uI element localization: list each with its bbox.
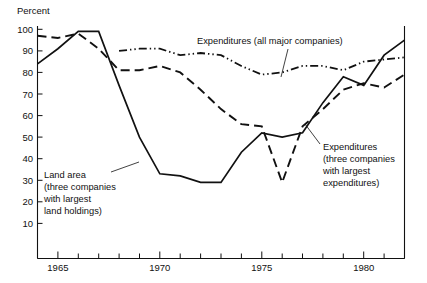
percent-line-chart: Percent 100 90 80 70 60 50 40 <box>0 0 427 283</box>
annotation-expenditures-three-line-2: (three companies <box>323 154 395 164</box>
x-label-1965: 1965 <box>47 262 68 273</box>
y-label-90: 90 <box>22 45 33 56</box>
y-label-50: 50 <box>22 132 33 143</box>
y-label-40: 40 <box>22 153 33 164</box>
annotation-expenditures-three-line-3: with largest <box>322 166 370 176</box>
annotation-expenditures-three-line-1: Expenditures <box>323 142 378 152</box>
y-label-30: 30 <box>22 175 33 186</box>
annotation-land-area-line-2: (three companies <box>44 182 116 192</box>
x-label-1980: 1980 <box>353 262 374 273</box>
y-label-80: 80 <box>22 67 33 78</box>
annotation-land-area-line-3: with largest <box>43 194 91 204</box>
y-axis-title: Percent <box>17 5 50 16</box>
x-label-1970: 1970 <box>149 262 170 273</box>
annotation-expenditures-three-line-4: expenditures) <box>323 178 379 188</box>
y-label-70: 70 <box>22 89 33 100</box>
chart-figure: Percent 100 90 80 70 60 50 40 <box>0 0 427 283</box>
y-label-60: 60 <box>22 110 33 121</box>
x-label-1975: 1975 <box>251 262 272 273</box>
y-label-20: 20 <box>22 196 33 207</box>
annotation-land-area-line-4: land holdings) <box>44 206 102 216</box>
annotation-expenditures-all-label: Expenditures (all major companies) <box>197 36 343 46</box>
y-label-10: 10 <box>22 218 33 229</box>
annotation-land-area-line-1: Land area <box>44 170 87 180</box>
y-label-100: 100 <box>17 24 33 35</box>
